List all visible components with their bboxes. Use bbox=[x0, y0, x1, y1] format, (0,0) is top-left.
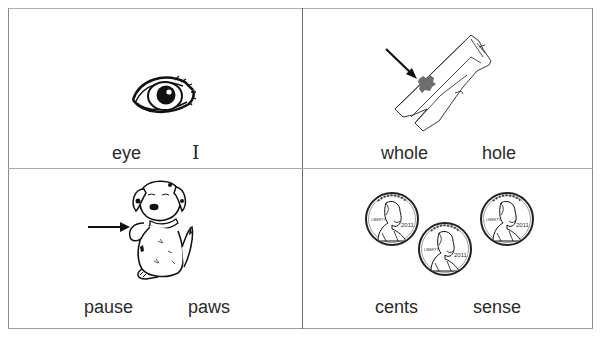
word-pause: pause bbox=[84, 297, 133, 317]
word-eye: eye bbox=[112, 143, 141, 163]
word-cents: cents bbox=[375, 297, 418, 317]
word-i: I bbox=[192, 142, 200, 162]
pennies-icon: LIBERTY 2011 bbox=[365, 191, 535, 283]
word-whole: whole bbox=[381, 143, 428, 163]
puppy-icon bbox=[88, 177, 198, 285]
penny-left bbox=[366, 193, 418, 245]
card-paws: pause paws bbox=[9, 169, 302, 328]
word-hole: hole bbox=[482, 143, 516, 163]
torn-pants-icon bbox=[381, 27, 501, 137]
card-hole: whole hole bbox=[303, 9, 592, 168]
word-paws: paws bbox=[188, 297, 230, 317]
word-sense: sense bbox=[473, 297, 521, 317]
card-eye: eye I bbox=[9, 9, 302, 168]
card-cents: LIBERTY 2011 cents sense bbox=[303, 169, 592, 328]
eye-icon bbox=[129, 70, 199, 118]
penny-right bbox=[481, 193, 533, 245]
penny-middle bbox=[419, 223, 471, 275]
